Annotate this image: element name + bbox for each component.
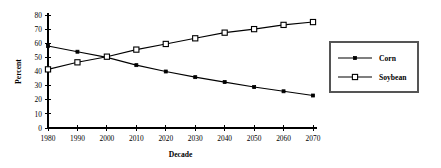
series-line-soybean [48,22,313,69]
data-point-soybean [310,19,315,24]
chart-legend: CornSoybean [330,42,418,92]
data-point-soybean [134,47,139,52]
line-chart: 01020304050607080 1980199020002010202020… [0,0,441,168]
y-tick-label: 50 [35,53,43,62]
x-tick-label: 1980 [41,134,56,143]
x-axis-title: Decade [169,150,193,159]
data-point-corn [282,90,285,93]
legend-marker-corn [354,57,357,60]
y-tick-label: 60 [35,39,43,48]
x-tick-label: 2030 [188,134,203,143]
data-point-corn [47,45,50,48]
legend-label-soybean: Soybean [379,73,407,82]
y-tick-label: 80 [35,11,43,20]
data-point-soybean [75,60,80,65]
y-tick-label: 40 [35,67,43,76]
legend-marker-soybean [352,74,357,79]
data-point-soybean [222,30,227,35]
x-tick-label: 1990 [70,134,85,143]
data-point-corn [312,94,315,97]
data-point-soybean [104,54,109,59]
data-point-corn [194,76,197,79]
data-point-soybean [193,36,198,41]
legend-label-corn: Corn [379,54,397,63]
data-point-soybean [45,67,50,72]
data-point-corn [253,86,256,89]
data-point-corn [135,64,138,67]
y-tick-label: 30 [35,81,43,90]
x-tick-label: 2010 [129,134,144,143]
x-tick-label: 2040 [217,134,232,143]
y-tick-label: 70 [35,25,43,34]
chart-figure: 01020304050607080 1980199020002010202020… [0,0,441,168]
x-tick-label: 2070 [306,134,321,143]
data-point-corn [223,81,226,84]
legend-box [330,42,418,92]
x-tick-label: 2000 [99,134,114,143]
x-tick-label: 2050 [247,134,262,143]
y-axis-title: Percent [14,59,23,84]
data-point-soybean [163,41,168,46]
data-point-soybean [252,27,257,32]
x-axis: 1980199020002010202020302040205020602070 [41,125,321,143]
data-point-soybean [281,22,286,27]
data-point-corn [164,70,167,73]
series-line-corn [48,46,313,95]
y-tick-label: 0 [38,124,42,133]
data-point-corn [76,50,79,53]
x-tick-label: 2020 [158,134,173,143]
x-tick-label: 2060 [276,134,291,143]
y-tick-label: 20 [35,95,43,104]
y-tick-label: 10 [35,110,43,119]
data-series-group [45,19,315,97]
